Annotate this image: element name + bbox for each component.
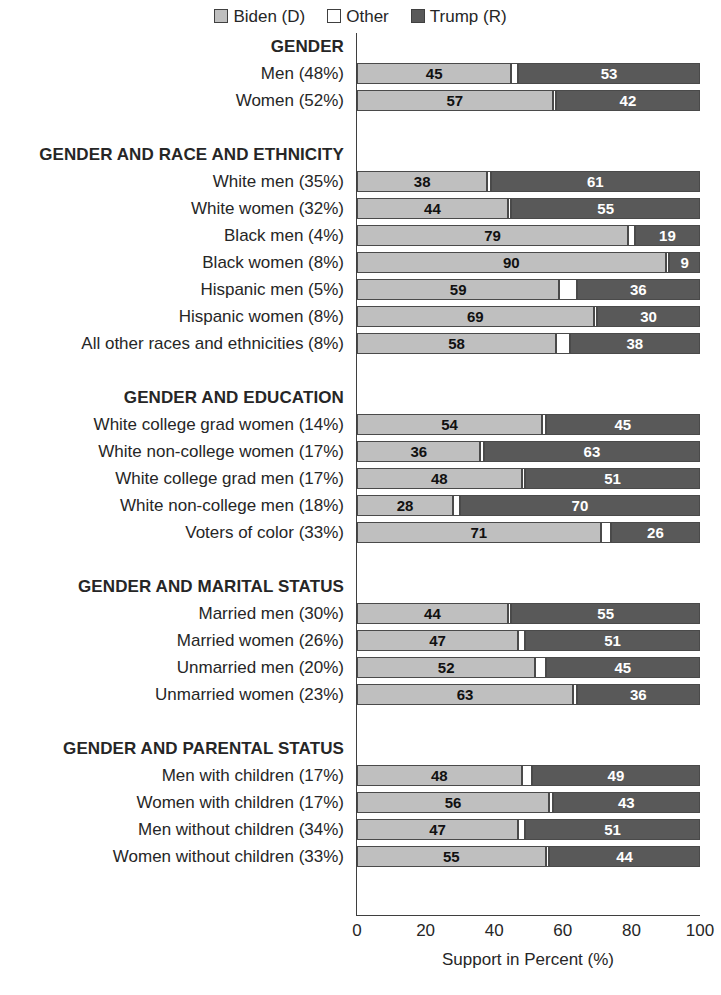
bar-segment-biden: 48 <box>357 468 522 489</box>
row-label-hispanic-men-5: Hispanic men (5%) <box>0 276 350 303</box>
bar-segment-biden: 54 <box>357 414 542 435</box>
bar-value-biden: 48 <box>431 471 448 486</box>
x-axis-ticks: 020406080100 <box>356 918 700 944</box>
row-label-voters-of-color-33: Voters of color (33%) <box>0 519 350 546</box>
bar-segment-trump: 51 <box>525 468 700 489</box>
bar-segment-trump: 36 <box>577 684 700 705</box>
bar-segment-other <box>556 333 570 354</box>
bar-value-biden: 38 <box>414 174 431 189</box>
row-label-white-non-college-men-18: White non-college men (18%) <box>0 492 350 519</box>
bar-segment-trump: 19 <box>635 225 700 246</box>
stacked-bar: 5643 <box>357 792 700 813</box>
chart-row: Hispanic women (8%)6930 <box>0 303 721 330</box>
x-tick-40: 40 <box>485 918 504 944</box>
bar-value-trump: 53 <box>601 66 618 81</box>
stacked-bar: 4851 <box>357 468 700 489</box>
bar-segment-trump: 44 <box>549 846 700 867</box>
row-label-married-men-30: Married men (30%) <box>0 600 350 627</box>
legend-entry-other: Other <box>327 8 389 25</box>
row-label-unmarried-women-23: Unmarried women (23%) <box>0 681 350 708</box>
chart-row: All other races and ethnicities (8%)5838 <box>0 330 721 357</box>
row-label-women-52: Women (52%) <box>0 87 350 114</box>
row-label-white-women-32: White women (32%) <box>0 195 350 222</box>
stacked-bar: 5742 <box>357 90 700 111</box>
stacked-bar: 4553 <box>357 63 700 84</box>
bar-value-trump: 51 <box>604 633 621 648</box>
chart-row: Unmarried women (23%)6336 <box>0 681 721 708</box>
bar-segment-trump: 53 <box>518 63 700 84</box>
chart-row: White men (35%)3861 <box>0 168 721 195</box>
bar-segment-trump: 49 <box>532 765 700 786</box>
bar-segment-biden: 56 <box>357 792 549 813</box>
row-label-black-men-4: Black men (4%) <box>0 222 350 249</box>
bar-segment-trump: 61 <box>491 171 700 192</box>
bar-value-trump: 63 <box>584 444 601 459</box>
chart-row: Women (52%)5742 <box>0 87 721 114</box>
bar-value-trump: 70 <box>572 498 589 513</box>
row-label-white-college-grad-men-17: White college grad men (17%) <box>0 465 350 492</box>
x-axis-title: Support in Percent (%) <box>356 950 700 970</box>
legend-label-trump: Trump (R) <box>430 8 507 25</box>
bar-value-biden: 79 <box>484 228 501 243</box>
bar-segment-other <box>518 819 525 840</box>
section-gap <box>0 546 721 573</box>
legend-swatch-biden-icon <box>214 9 228 23</box>
bar-value-trump: 19 <box>659 228 676 243</box>
chart-row: Men with children (17%)4849 <box>0 762 721 789</box>
row-label-women-with-children-17: Women with children (17%) <box>0 789 350 816</box>
bar-segment-trump: 51 <box>525 819 700 840</box>
stacked-bar: 4849 <box>357 765 700 786</box>
stacked-bar: 7126 <box>357 522 700 543</box>
bar-value-trump: 38 <box>626 336 643 351</box>
section-header-row: GENDER <box>0 33 721 60</box>
chart-row: Married women (26%)4751 <box>0 627 721 654</box>
bar-value-biden: 69 <box>467 309 484 324</box>
bar-segment-other <box>559 279 576 300</box>
bar-segment-other <box>453 495 460 516</box>
bar-value-trump: 36 <box>630 282 647 297</box>
bar-value-trump: 42 <box>620 93 637 108</box>
x-tick-80: 80 <box>622 918 641 944</box>
bar-segment-other <box>511 63 518 84</box>
stacked-bar: 4455 <box>357 198 700 219</box>
bar-value-trump: 45 <box>614 417 631 432</box>
bar-segment-biden: 28 <box>357 495 453 516</box>
section-header-row: GENDER AND PARENTAL STATUS <box>0 735 721 762</box>
bar-segment-biden: 47 <box>357 630 518 651</box>
bar-segment-biden: 47 <box>357 819 518 840</box>
chart-row: White college grad men (17%)4851 <box>0 465 721 492</box>
bar-segment-biden: 58 <box>357 333 556 354</box>
bar-segment-trump: 9 <box>669 252 700 273</box>
row-label-married-women-26: Married women (26%) <box>0 627 350 654</box>
bar-segment-biden: 55 <box>357 846 546 867</box>
bar-value-biden: 56 <box>445 795 462 810</box>
chart-row: Black women (8%)909 <box>0 249 721 276</box>
bar-value-biden: 44 <box>424 606 441 621</box>
bar-value-trump: 30 <box>640 309 657 324</box>
stacked-bar: 909 <box>357 252 700 273</box>
row-label-white-men-35: White men (35%) <box>0 168 350 195</box>
bar-value-trump: 44 <box>616 849 633 864</box>
bar-segment-trump: 42 <box>556 90 700 111</box>
row-label-women-without-children-33: Women without children (33%) <box>0 843 350 870</box>
chart-legend: Biden (D)OtherTrump (R) <box>0 4 721 28</box>
row-label-white-non-college-women-17: White non-college women (17%) <box>0 438 350 465</box>
bar-value-biden: 45 <box>426 66 443 81</box>
chart-row: White non-college women (17%)3663 <box>0 438 721 465</box>
bar-value-biden: 55 <box>443 849 460 864</box>
stacked-bar: 5445 <box>357 414 700 435</box>
stacked-bar: 3861 <box>357 171 700 192</box>
stacked-bar: 6336 <box>357 684 700 705</box>
bar-segment-trump: 55 <box>511 198 700 219</box>
bar-segment-biden: 69 <box>357 306 594 327</box>
bar-value-trump: 43 <box>618 795 635 810</box>
bar-value-biden: 36 <box>410 444 427 459</box>
bar-value-biden: 57 <box>446 93 463 108</box>
stacked-bar: 2870 <box>357 495 700 516</box>
bar-segment-biden: 59 <box>357 279 559 300</box>
bar-segment-biden: 79 <box>357 225 628 246</box>
x-tick-20: 20 <box>416 918 435 944</box>
bar-segment-biden: 90 <box>357 252 666 273</box>
section-header-row: GENDER AND MARITAL STATUS <box>0 573 721 600</box>
x-tick-0: 0 <box>352 918 361 944</box>
